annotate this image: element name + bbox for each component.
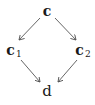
commutative-diagram: c c1 c2 d (0, 0, 95, 105)
node-c1-label: c (6, 42, 15, 58)
node-d: d (42, 84, 52, 99)
arrow-c1-to-d (21, 60, 40, 82)
arrow-c-to-c2 (55, 18, 76, 40)
node-c-label: c (43, 3, 52, 19)
node-c2-label: c (75, 42, 84, 58)
node-c1: c1 (6, 43, 21, 59)
node-c2-subscript: 2 (85, 49, 91, 59)
node-c1-subscript: 1 (16, 49, 22, 59)
arrow-c2-to-d (58, 60, 77, 82)
node-c2: c2 (75, 43, 90, 59)
arrow-c-to-c1 (19, 18, 40, 40)
node-c: c (43, 4, 52, 18)
node-d-label: d (42, 82, 52, 100)
